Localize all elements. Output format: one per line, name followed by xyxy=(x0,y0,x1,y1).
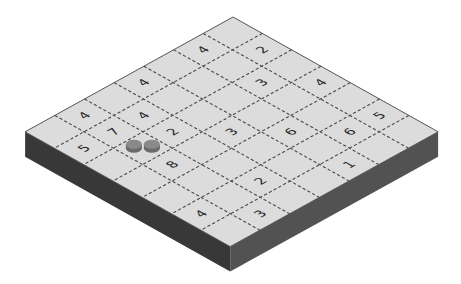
disc-top xyxy=(126,140,142,149)
game-disc[interactable] xyxy=(144,140,160,153)
puzzle-board: 2454366143422478354 xyxy=(0,0,461,284)
game-disc[interactable] xyxy=(126,140,142,153)
disc-top xyxy=(144,140,160,149)
